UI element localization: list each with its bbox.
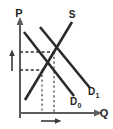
quantity-shift-arrow: [41, 118, 62, 124]
supply-curve-label: S: [69, 9, 76, 20]
price-axis: [17, 17, 24, 118]
demand-initial-label: D 0: [70, 96, 82, 109]
demand-new-label-base: D: [88, 86, 95, 97]
quantity-axis-label: Q: [100, 107, 109, 119]
demand-initial-label-subscript: 0: [78, 102, 82, 109]
price-shift-arrowhead: [9, 50, 15, 57]
price-axis-label: P: [15, 7, 22, 19]
demand-new-label-subscript: 1: [96, 92, 100, 99]
quantity-shift-arrowhead: [55, 118, 62, 124]
supply-demand-chart: P Q S D 1 D 0: [0, 0, 113, 129]
demand-initial-label-base: D: [70, 96, 77, 107]
supply-curve: [25, 22, 72, 100]
price-shift-arrow: [9, 50, 15, 72]
demand-new-label: D 1: [88, 86, 100, 99]
demand-curve-initial: [24, 32, 74, 96]
quantity-axis: [20, 110, 102, 117]
demand-curve-new: [40, 27, 90, 88]
supply-demand-figure: P Q S D 1 D 0: [0, 0, 113, 129]
